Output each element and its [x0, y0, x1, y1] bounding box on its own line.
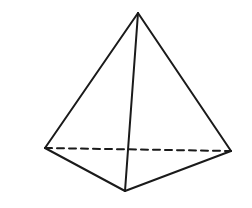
edge-apex-right [138, 13, 231, 151]
edge-apex-left [45, 13, 138, 148]
tetrahedron-diagram [0, 0, 252, 208]
edge-right-front [125, 151, 231, 191]
tetrahedron-edges [45, 13, 231, 191]
edge-left-right-hidden [45, 148, 231, 151]
edge-left-front [45, 148, 125, 191]
edge-apex-front [125, 13, 138, 191]
